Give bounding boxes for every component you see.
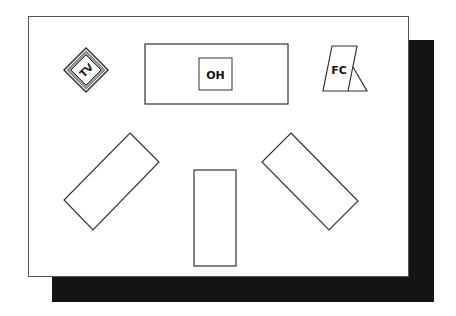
overhead-label: OH bbox=[206, 69, 225, 82]
tv-icon: TV bbox=[64, 48, 108, 92]
table-left bbox=[64, 133, 159, 230]
flipchart-icon: FC bbox=[323, 46, 367, 91]
table-right bbox=[262, 133, 358, 230]
flipchart-label: FC bbox=[331, 64, 347, 77]
table-center bbox=[194, 170, 236, 266]
overhead-projector-icon: OH bbox=[145, 44, 288, 104]
room-layout-diagram: TV OH FC bbox=[0, 0, 456, 316]
